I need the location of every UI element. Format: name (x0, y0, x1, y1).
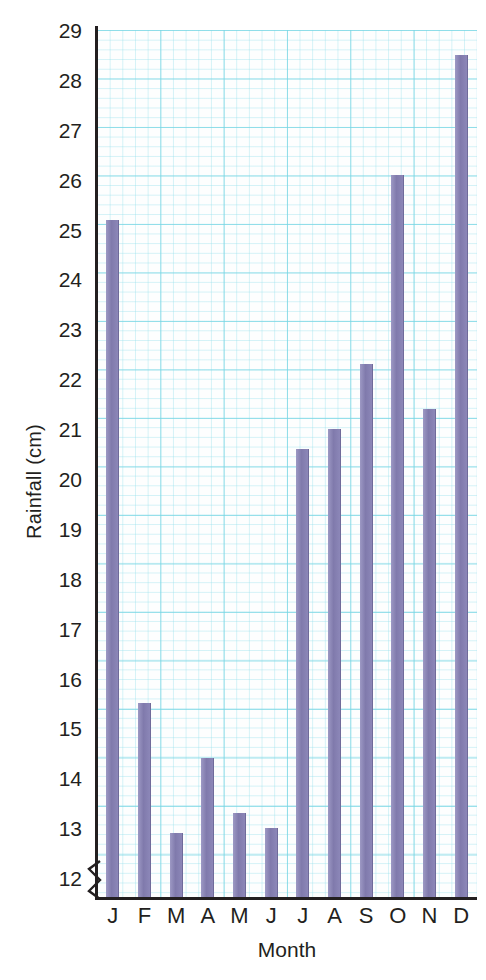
y-axis-tick: 16 (59, 668, 82, 689)
x-axis-tick: J (297, 903, 308, 929)
y-axis-tick: 12 (59, 868, 82, 889)
axis-break-icon (80, 860, 102, 900)
y-axis-tick: 23 (59, 319, 82, 340)
y-axis-tick: 29 (59, 20, 82, 41)
bar (391, 175, 404, 898)
x-axis-tick-labels: JFMAMJJASOND (97, 903, 477, 937)
y-axis-tick: 28 (59, 69, 82, 90)
x-axis-tick: S (359, 903, 374, 929)
y-axis-tick: 17 (59, 618, 82, 639)
x-axis-tick: D (453, 903, 469, 929)
bar (233, 813, 246, 898)
x-axis-tick: N (422, 903, 438, 929)
x-axis-tick: O (389, 903, 406, 929)
y-axis-tick: 20 (59, 468, 82, 489)
y-axis-tick: 25 (59, 219, 82, 240)
bar (106, 220, 119, 898)
y-axis-tick: 21 (59, 419, 82, 440)
y-axis-tick: 19 (59, 518, 82, 539)
x-axis-tick: A (327, 903, 342, 929)
x-axis-tick: A (200, 903, 215, 929)
x-axis-label: Month (97, 938, 477, 962)
bar (138, 703, 151, 898)
bar (423, 409, 436, 898)
bar-series (97, 30, 477, 898)
bar (265, 828, 278, 898)
y-axis-tick: 26 (59, 169, 82, 190)
plot-area (97, 30, 477, 898)
bar (328, 429, 341, 898)
x-axis-tick: M (167, 903, 185, 929)
y-axis-tick-labels: 121314151617181920212223242526272829 (0, 0, 90, 980)
x-axis-tick: J (107, 903, 118, 929)
x-axis-line (95, 897, 477, 900)
x-axis-tick: J (266, 903, 277, 929)
y-axis-tick: 14 (59, 768, 82, 789)
bar (201, 758, 214, 898)
y-axis-tick: 22 (59, 369, 82, 390)
x-axis-tick: F (138, 903, 151, 929)
bar (455, 55, 468, 898)
bar (170, 833, 183, 898)
y-axis-tick: 18 (59, 568, 82, 589)
y-axis-tick: 27 (59, 119, 82, 140)
y-axis-tick: 24 (59, 269, 82, 290)
bar (360, 364, 373, 898)
y-axis-tick: 13 (59, 818, 82, 839)
x-axis-tick: M (230, 903, 248, 929)
y-axis-tick: 15 (59, 718, 82, 739)
bar (296, 449, 309, 898)
y-axis-line (95, 26, 98, 898)
rainfall-bar-chart: Rainfall (cm) 12131415161718192021222324… (0, 0, 486, 980)
